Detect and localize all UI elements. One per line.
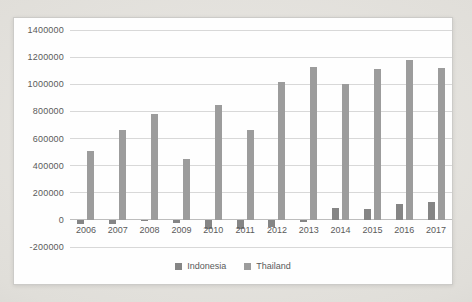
x-tick-label: 2015 [357, 225, 389, 236]
bar-thailand-2012 [278, 82, 285, 220]
gridline [70, 138, 452, 139]
x-tick-label: 2009 [166, 225, 198, 236]
legend: Indonesia Thailand [14, 259, 452, 273]
x-tick-label: 2010 [197, 225, 229, 236]
bar-thailand-2014 [342, 84, 349, 220]
bar-indonesia-2007 [109, 220, 116, 224]
zero-axis-line [70, 219, 452, 220]
bar-indonesia-2017 [428, 202, 435, 220]
y-tick-label: -200000 [14, 242, 64, 252]
gridline [70, 165, 452, 166]
bar-thailand-2008 [151, 114, 158, 220]
bar-indonesia-2008 [141, 220, 148, 221]
x-tick-label: 2016 [388, 225, 420, 236]
x-tick-label: 2013 [293, 225, 325, 236]
gridline [70, 30, 452, 31]
y-tick-label: 1200000 [14, 52, 64, 62]
legend-label-thailand: Thailand [256, 261, 291, 271]
y-tick-label: 1000000 [14, 79, 64, 89]
bar-indonesia-2014 [332, 208, 339, 220]
thailand-swatch-icon [244, 263, 251, 270]
bar-thailand-2007 [119, 130, 126, 220]
x-tick-label: 2007 [102, 225, 134, 236]
gridline [70, 111, 452, 112]
bar-thailand-2013 [310, 67, 317, 220]
bar-thailand-2017 [438, 68, 445, 220]
legend-label-indonesia: Indonesia [187, 261, 226, 271]
legend-item-indonesia: Indonesia [175, 261, 226, 271]
indonesia-swatch-icon [175, 263, 182, 270]
gridline [70, 247, 452, 248]
y-tick-label: 600000 [14, 134, 64, 144]
x-tick-label: 2006 [70, 225, 102, 236]
bar-indonesia-2013 [300, 220, 307, 222]
bar-thailand-2011 [247, 130, 254, 220]
y-tick-label: 200000 [14, 188, 64, 198]
x-tick-label: 2017 [420, 225, 452, 236]
bar-indonesia-2009 [173, 220, 180, 223]
x-tick-label: 2008 [134, 225, 166, 236]
gridline [70, 84, 452, 85]
y-tick-label: 1400000 [14, 25, 64, 35]
x-tick-label: 2011 [229, 225, 261, 236]
legend-item-thailand: Thailand [244, 261, 291, 271]
bar-indonesia-2015 [364, 209, 371, 220]
photo-background: -200000020000040000060000080000010000001… [0, 0, 472, 302]
bar-thailand-2016 [406, 60, 413, 220]
plot-area [70, 30, 452, 247]
x-tick-label: 2014 [325, 225, 357, 236]
bar-indonesia-2016 [396, 204, 403, 220]
bar-chart: -200000020000040000060000080000010000001… [13, 17, 453, 285]
bar-thailand-2006 [87, 151, 94, 220]
y-tick-label: 0 [14, 215, 64, 225]
bar-thailand-2010 [215, 105, 222, 220]
bar-thailand-2015 [374, 69, 381, 220]
x-tick-label: 2012 [261, 225, 293, 236]
bar-indonesia-2006 [77, 220, 84, 224]
gridline [70, 192, 452, 193]
y-tick-label: 800000 [14, 106, 64, 116]
gridline [70, 57, 452, 58]
y-tick-label: 400000 [14, 161, 64, 171]
x-axis-labels: 2006200720082009201020112012201320142015… [70, 225, 452, 237]
bar-thailand-2009 [183, 159, 190, 220]
y-axis-labels: -200000020000040000060000080000010000001… [14, 30, 64, 247]
